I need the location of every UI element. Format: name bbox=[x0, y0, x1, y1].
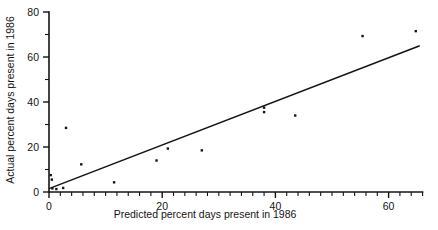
data-point bbox=[415, 30, 417, 32]
x-tick-label: 60 bbox=[383, 200, 395, 212]
data-point bbox=[51, 187, 53, 189]
data-point bbox=[361, 35, 363, 37]
plot-canvas: 0204060020406080 Predicted percent days … bbox=[0, 0, 438, 230]
data-point bbox=[263, 106, 265, 108]
data-point bbox=[167, 147, 169, 149]
fit-line-group bbox=[49, 46, 420, 189]
x-axis-title: Predicted percent days present in 1986 bbox=[114, 208, 297, 220]
tick-labels-group: 0204060020406080 bbox=[27, 6, 394, 212]
data-point bbox=[113, 181, 115, 183]
data-point bbox=[65, 127, 67, 129]
data-point bbox=[201, 149, 203, 151]
y-tick-label: 0 bbox=[33, 186, 39, 198]
axes-group bbox=[49, 12, 423, 192]
x-tick-label: 0 bbox=[46, 200, 52, 212]
data-point bbox=[155, 159, 157, 161]
data-point bbox=[62, 187, 64, 189]
y-tick-label: 40 bbox=[27, 96, 39, 108]
y-axis-title: Actual percent days present in 1986 bbox=[4, 16, 16, 184]
data-point bbox=[49, 174, 51, 176]
regression-line bbox=[49, 46, 420, 189]
ticks-group bbox=[43, 12, 423, 198]
data-point bbox=[51, 178, 53, 180]
scatter-plot-figure: 0204060020406080 Predicted percent days … bbox=[0, 0, 438, 230]
y-tick-label: 60 bbox=[27, 51, 39, 63]
data-point bbox=[80, 163, 82, 165]
data-point bbox=[55, 188, 57, 190]
y-tick-label: 20 bbox=[27, 141, 39, 153]
y-tick-label: 80 bbox=[27, 6, 39, 18]
data-point bbox=[294, 114, 296, 116]
data-points-group bbox=[49, 30, 416, 190]
data-point bbox=[263, 111, 265, 113]
